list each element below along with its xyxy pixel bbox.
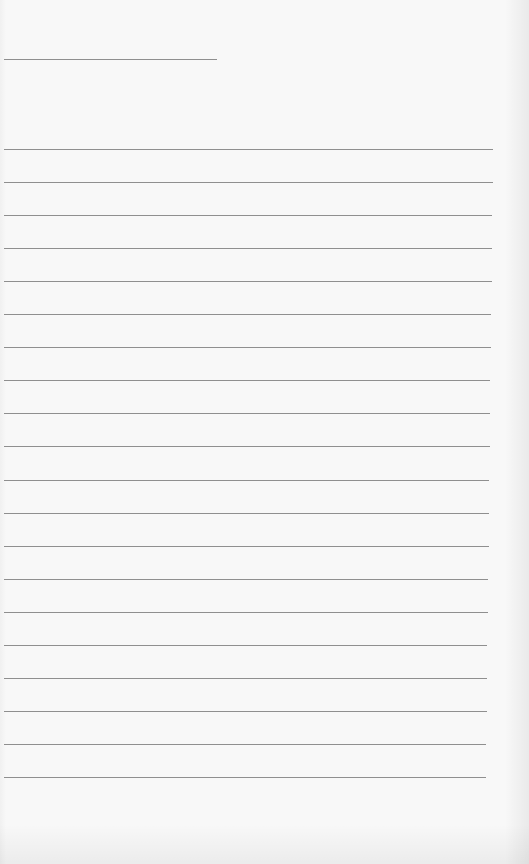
ruled-line: [4, 380, 490, 381]
ruled-line: [4, 347, 491, 348]
lined-paper-page: [0, 0, 529, 864]
ruled-line: [4, 446, 490, 447]
ruled-line: [4, 248, 492, 249]
ruled-line: [4, 777, 486, 778]
title-underline: [4, 59, 217, 60]
ruled-line: [4, 579, 488, 580]
ruled-line: [4, 413, 490, 414]
ruled-line: [4, 182, 493, 183]
ruled-line: [4, 513, 489, 514]
ruled-line: [4, 149, 493, 150]
ruled-line: [4, 215, 492, 216]
ruled-line: [4, 744, 486, 745]
ruled-line: [4, 546, 489, 547]
ruled-line: [4, 480, 489, 481]
ruled-line: [4, 678, 487, 679]
ruled-line: [4, 314, 491, 315]
ruled-line: [4, 645, 487, 646]
ruled-line: [4, 711, 487, 712]
ruled-line: [4, 612, 488, 613]
ruled-line: [4, 281, 492, 282]
